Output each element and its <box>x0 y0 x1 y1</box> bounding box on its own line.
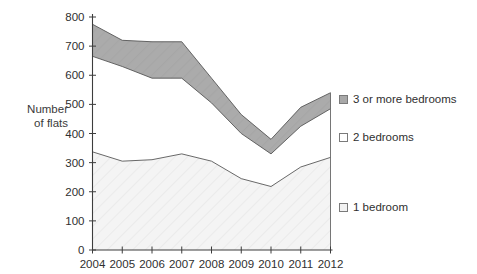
y-axis-tick-label: 600 <box>65 69 84 81</box>
chart-container: Number of flats 010020030040050060070080… <box>0 0 477 274</box>
x-axis-tick-label: 2010 <box>258 258 284 270</box>
x-axis-tick-label: 2012 <box>318 258 344 270</box>
x-axis-tick-label: 2011 <box>288 258 313 270</box>
x-axis-tick-label: 2007 <box>169 258 195 270</box>
x-axis-tick-label: 2005 <box>109 258 135 270</box>
x-axis-tick-label: 2006 <box>139 258 165 270</box>
legend-item-1-bedroom[interactable]: 1 bedroom <box>339 201 408 213</box>
x-axis-tick-label: 2008 <box>199 258 225 270</box>
legend-swatch-icon-1-bedroom <box>339 203 348 212</box>
y-axis-tick-label: 400 <box>65 128 84 140</box>
y-axis-tick-label: 500 <box>65 98 84 110</box>
legend-swatch-icon-2-bedrooms <box>339 133 348 142</box>
y-axis-tick-label: 200 <box>65 186 84 198</box>
legend-item-3-or-more-bedrooms[interactable]: 3 or more bedrooms <box>339 93 457 105</box>
legend-swatch-icon-3-or-more-bedrooms <box>339 95 348 104</box>
y-axis-tick-label: 100 <box>65 215 84 227</box>
y-axis-tick-label: 700 <box>65 40 84 52</box>
y-axis-tick-label: 800 <box>65 11 84 23</box>
legend-label-2-bedrooms: 2 bedrooms <box>353 131 414 143</box>
x-axis-tick-label: 2009 <box>228 258 254 270</box>
legend-item-2-bedrooms[interactable]: 2 bedrooms <box>339 131 414 143</box>
y-axis-tick-label: 300 <box>65 157 84 169</box>
x-axis-tick-label: 2004 <box>80 258 106 270</box>
y-axis-tick-label: 0 <box>78 244 84 256</box>
legend-label-1-bedroom: 1 bedroom <box>353 201 408 213</box>
series-layer <box>93 24 331 250</box>
legend-label-3-or-more-bedrooms: 3 or more bedrooms <box>353 93 457 105</box>
